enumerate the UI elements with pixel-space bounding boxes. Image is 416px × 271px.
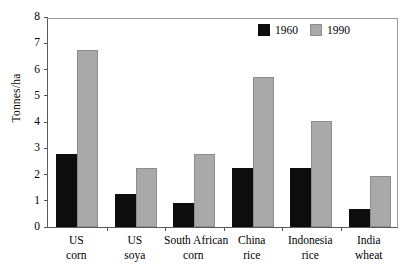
bar-group: [232, 19, 274, 227]
bar-1990: [311, 121, 332, 227]
x-label-line-2: corn: [164, 248, 223, 263]
x-label-line-1: Indonesia: [288, 234, 333, 246]
bar-1990: [77, 50, 98, 227]
y-axis-title: Tonnes/ha: [10, 50, 22, 146]
bar-1960: [56, 154, 77, 228]
legend-item: 1990: [310, 24, 350, 36]
bar-1960: [173, 203, 194, 227]
x-axis-separator-tick: [341, 227, 342, 231]
gray-square-swatch: [310, 24, 322, 36]
y-tick-mark: [44, 17, 48, 18]
bar-chart: Tonnes/ha 012345678 UScornUSsoyaSouth Af…: [0, 0, 416, 271]
bar-group: [173, 19, 215, 227]
y-tick-label: 0: [26, 219, 40, 234]
bar-1990: [253, 77, 274, 227]
x-label-line-1: US: [69, 234, 84, 246]
bar-1960: [115, 194, 136, 227]
bar-group: [115, 19, 157, 227]
x-axis-category-label: Chinarice: [223, 233, 282, 262]
y-tick-label: 4: [26, 114, 40, 129]
legend-item: 1960: [258, 24, 298, 36]
legend-label: 1990: [327, 24, 350, 36]
x-axis-category-label: Indonesiarice: [281, 233, 340, 262]
bar-group: [290, 19, 332, 227]
plot-area: 012345678: [47, 18, 398, 228]
x-label-line-2: rice: [281, 248, 340, 263]
x-label-line-2: rice: [223, 248, 282, 263]
x-axis-separator-tick: [224, 227, 225, 231]
bar-1990: [370, 176, 391, 227]
x-label-line-2: wheat: [340, 248, 399, 263]
x-axis-separator-tick: [107, 227, 108, 231]
x-axis-category-label: Indiawheat: [340, 233, 399, 262]
x-label-line-1: China: [238, 234, 265, 246]
bar-1990: [136, 168, 157, 227]
x-axis-category-label: South Africancorn: [164, 233, 223, 262]
y-tick-label: 8: [26, 9, 40, 24]
x-label-line-1: South African: [164, 234, 228, 246]
bar-1960: [349, 209, 370, 227]
x-axis-category-label: UScorn: [47, 233, 106, 262]
y-tick-label: 7: [26, 35, 40, 50]
bars-layer: [48, 19, 397, 227]
x-label-line-1: India: [357, 234, 381, 246]
x-label-line-1: US: [127, 234, 142, 246]
y-tick-label: 3: [26, 140, 40, 155]
bar-1960: [290, 168, 311, 227]
bar-1990: [194, 154, 215, 228]
y-tick-label: 1: [26, 193, 40, 208]
x-label-line-2: soya: [106, 248, 165, 263]
x-axis-separator-tick: [165, 227, 166, 231]
legend-label: 1960: [275, 24, 298, 36]
x-label-line-2: corn: [47, 248, 106, 263]
y-tick-label: 2: [26, 167, 40, 182]
y-tick-label: 6: [26, 62, 40, 77]
x-axis-category-label: USsoya: [106, 233, 165, 262]
bar-1960: [232, 168, 253, 227]
y-tick-label: 5: [26, 88, 40, 103]
chart-legend: 19601990: [258, 24, 350, 36]
bar-group: [349, 19, 391, 227]
bar-group: [56, 19, 98, 227]
black-square-swatch: [258, 24, 270, 36]
x-axis-separator-tick: [282, 227, 283, 231]
